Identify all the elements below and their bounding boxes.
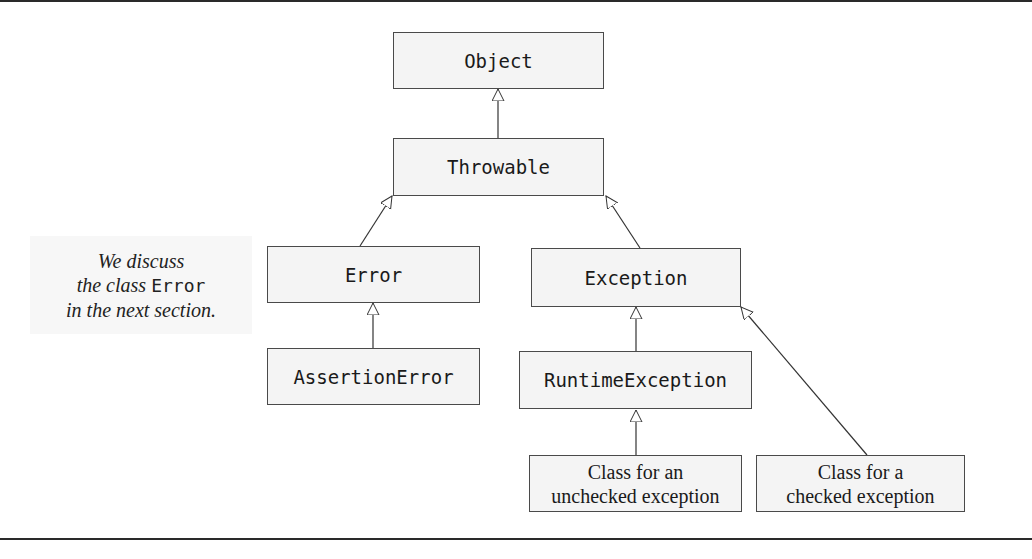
note-line3: in the next section. — [30, 298, 252, 322]
class-assertion-error: AssertionError — [267, 348, 480, 405]
edge-exception-throwable — [606, 196, 640, 248]
note-line2: the class Error — [30, 273, 252, 298]
checked-line1: Class for a — [818, 460, 904, 484]
class-assertion-error-label: AssertionError — [293, 366, 453, 388]
edge-error-throwable — [360, 196, 392, 246]
class-error: Error — [267, 246, 480, 303]
class-exception-label: Exception — [585, 267, 688, 289]
note-line2-text: the class — [77, 274, 151, 296]
class-object: Object — [393, 32, 604, 89]
margin-note: We discuss the class Error in the next s… — [30, 236, 252, 334]
class-runtime-exception: RuntimeException — [519, 351, 752, 409]
class-object-label: Object — [464, 50, 533, 72]
class-error-label: Error — [345, 264, 402, 286]
note-line2-code: Error — [151, 275, 205, 296]
class-exception: Exception — [531, 248, 741, 307]
class-throwable-label: Throwable — [447, 156, 550, 178]
edge-checked-exception — [741, 307, 867, 455]
class-checked-exception: Class for a checked exception — [756, 455, 965, 512]
class-throwable: Throwable — [393, 138, 604, 196]
note-line1: We discuss — [30, 249, 252, 273]
unchecked-line1: Class for an — [588, 460, 684, 484]
class-unchecked-exception: Class for an unchecked exception — [529, 455, 742, 512]
unchecked-line2: unchecked exception — [551, 484, 719, 508]
checked-line2: checked exception — [786, 484, 934, 508]
class-runtime-exception-label: RuntimeException — [544, 369, 727, 391]
